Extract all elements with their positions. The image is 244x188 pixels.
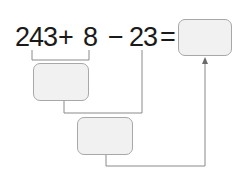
step2-answer-box[interactable] <box>77 117 133 155</box>
result-answer-box[interactable] <box>178 19 232 56</box>
arrow-up-icon <box>202 57 208 64</box>
plus-sign: + <box>58 22 73 52</box>
operand-23: 23 <box>129 22 157 52</box>
operand-8: 8 <box>83 22 97 52</box>
step1-answer-box[interactable] <box>33 63 89 101</box>
operand-243: 243 <box>15 22 57 52</box>
equals-sign: = <box>160 22 175 52</box>
minus-sign: − <box>108 22 123 52</box>
